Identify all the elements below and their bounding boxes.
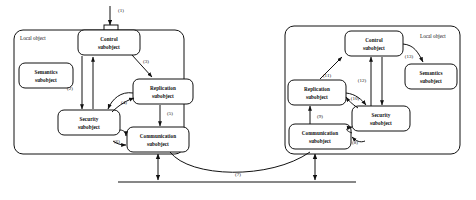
left-replication-label-line2: subobject	[152, 93, 174, 99]
right-semantics-subobject[interactable]: Semantics subobject	[405, 64, 457, 89]
left-communication-box[interactable]	[127, 127, 189, 152]
left-replication-subobject[interactable]: Replication subobject	[133, 79, 193, 104]
right-semantics-box[interactable]	[405, 64, 457, 89]
left-semantics-box[interactable]	[19, 63, 73, 88]
right-security-box[interactable]	[352, 106, 410, 131]
left-control-box[interactable]	[78, 30, 140, 55]
right-security-label-line1: Security	[372, 112, 391, 118]
right-replication-label-line2: subobject	[306, 94, 328, 100]
right-communication-subobject[interactable]: Communication subobject	[289, 124, 351, 149]
left-control-subobject[interactable]: Control subobject	[78, 30, 140, 55]
right-control-label-line2: subobject	[363, 45, 385, 51]
right-panel-label: Local object	[420, 33, 446, 39]
left-control-port	[104, 25, 118, 30]
edge-8-label: (8)	[352, 140, 358, 145]
edge-6-label: (6)	[114, 139, 120, 144]
left-edge-5-group: (5)	[160, 105, 173, 126]
edge-6-arrow-a	[120, 130, 126, 136]
left-communication-subobject[interactable]: Communication subobject	[127, 127, 189, 152]
left-replication-box[interactable]	[133, 79, 193, 104]
edge-13-label: (13)	[405, 54, 414, 59]
right-control-subobject[interactable]: Control subobject	[345, 31, 403, 56]
left-replication-label-line1: Replication	[150, 85, 176, 91]
edge-1-label: (1)	[118, 8, 124, 13]
right-semantics-label-line1: Semantics	[420, 70, 443, 76]
left-security-subobject[interactable]: Security subobject	[58, 110, 120, 135]
right-control-box[interactable]	[345, 31, 403, 56]
right-edge-12-group: (12)	[358, 57, 382, 106]
left-semantics-label-line2: subobject	[35, 77, 57, 83]
left-control-label-line2: subobject	[98, 44, 120, 50]
edge-3-label: (3)	[143, 59, 149, 64]
left-security-box[interactable]	[58, 110, 120, 135]
edge-5-label: (5)	[167, 111, 173, 116]
right-replication-subobject[interactable]: Replication subobject	[288, 80, 346, 105]
left-control-label-line1: Control	[100, 36, 118, 42]
right-communication-box[interactable]	[289, 124, 351, 149]
right-edge-13-group: (13)	[403, 44, 423, 62]
edge-2-label: (2)	[67, 86, 73, 91]
left-external-input-group: (1)	[104, 6, 124, 30]
left-panel-label: Local object	[20, 35, 46, 41]
edge-3-arrow	[132, 55, 152, 77]
left-security-label-line2: subobject	[78, 124, 100, 130]
right-control-label-line1: Control	[365, 37, 383, 43]
edge-11-label: (11)	[323, 73, 331, 78]
left-edge-4-group: (4)	[108, 93, 134, 112]
edge-12-label: (12)	[358, 78, 367, 83]
right-replication-label-line1: Replication	[304, 86, 330, 92]
right-security-subobject[interactable]: Security subobject	[352, 106, 410, 131]
figure-canvas: Local object (1) Control subobject Seman…	[0, 0, 476, 200]
edge-7-curve	[170, 152, 310, 172]
left-communication-label-line2: subobject	[147, 141, 169, 147]
edge-10-label: (10)	[351, 96, 360, 101]
network-group: (7)	[118, 152, 356, 182]
left-edge-3-group: (3)	[132, 55, 152, 77]
right-edge-9-group: (9)	[310, 106, 323, 124]
left-semantics-label-line1: Semantics	[35, 69, 58, 75]
right-semantics-label-line2: subobject	[420, 78, 442, 84]
left-semantics-subobject[interactable]: Semantics subobject	[19, 63, 73, 88]
left-security-label-line1: Security	[80, 116, 99, 122]
right-communication-label-line2: subobject	[309, 138, 331, 144]
edge-4-label: (4)	[121, 100, 127, 105]
right-edge-11-group: (11)	[320, 57, 342, 79]
edge-7-label: (7)	[235, 172, 241, 177]
edge-9-label: (9)	[317, 114, 323, 119]
right-communication-label-line1: Communication	[302, 130, 338, 136]
right-security-label-line2: subobject	[370, 120, 392, 126]
edge-13-arrow	[403, 44, 423, 62]
left-communication-label-line1: Communication	[140, 133, 176, 139]
right-replication-box[interactable]	[288, 80, 346, 105]
